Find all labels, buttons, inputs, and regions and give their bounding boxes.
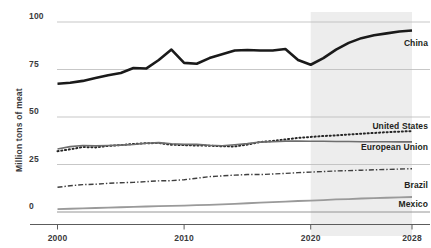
x-tick-label-2010: 2010	[154, 233, 214, 243]
series-label-european-union: European Union	[361, 142, 428, 152]
series-label-united-states: United States	[372, 121, 428, 131]
x-tick-label-2000: 2000	[28, 233, 88, 243]
meat-production-line-chart: Million tons of meat 1007550250 20002010…	[0, 0, 431, 248]
y-axis-title: Million tons of meat	[14, 88, 24, 172]
series-label-mexico: Mexico	[399, 199, 428, 209]
y-tick-label-0: 0	[29, 201, 34, 211]
y-tick-label-75: 75	[29, 59, 39, 69]
y-tick-label-100: 100	[29, 11, 44, 21]
x-tick-label-2020: 2020	[281, 233, 341, 243]
chart-plot-area	[0, 0, 431, 248]
y-tick-label-25: 25	[29, 154, 39, 164]
x-tick-label-2028: 2028	[382, 233, 431, 243]
series-label-brazil: Brazil	[404, 180, 428, 190]
series-label-china: China	[404, 38, 428, 48]
y-tick-label-50: 50	[29, 106, 39, 116]
